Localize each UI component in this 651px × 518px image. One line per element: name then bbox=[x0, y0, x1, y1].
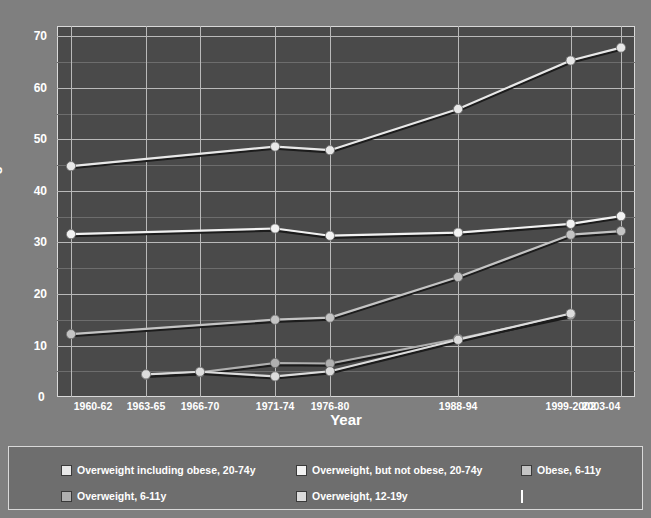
data-point-marker bbox=[270, 142, 279, 151]
y-axis-tick-label: 50 bbox=[13, 132, 47, 146]
series-line bbox=[71, 216, 621, 236]
data-point-marker bbox=[454, 272, 463, 281]
chart-legend: Overweight including obese, 20-74yOverwe… bbox=[8, 446, 643, 510]
x-axis-tick-label: 1971-74 bbox=[256, 400, 295, 412]
legend-item[interactable]: Overweight, 12-19y bbox=[296, 483, 521, 509]
y-axis-zero-label: 0 bbox=[38, 390, 45, 404]
x-axis-tick-label: 1988-94 bbox=[439, 400, 478, 412]
x-axis-label: Year bbox=[57, 411, 635, 428]
y-axis-label: Percentage bbox=[0, 158, 2, 233]
data-point-marker bbox=[454, 335, 463, 344]
data-point-marker bbox=[566, 230, 575, 239]
y-axis-tick-label: 70 bbox=[13, 29, 47, 43]
plot-wrapper: 10203040506070 1960-621963-651966-701971… bbox=[57, 26, 635, 397]
data-point-marker bbox=[325, 313, 334, 322]
y-axis-tick-label: 60 bbox=[13, 81, 47, 95]
y-axis-tick-label: 40 bbox=[13, 184, 47, 198]
y-axis-tick-label: 10 bbox=[13, 339, 47, 353]
x-axis-tick-label: 1976-80 bbox=[311, 400, 350, 412]
legend-item-label: Overweight, 6-11y bbox=[77, 490, 166, 502]
legend-swatch-icon bbox=[296, 491, 307, 502]
data-point-marker bbox=[616, 43, 625, 52]
series-line-shadow bbox=[71, 50, 621, 169]
legend-swatch-icon bbox=[521, 465, 532, 476]
data-point-marker bbox=[66, 330, 75, 339]
data-point-marker bbox=[270, 358, 279, 367]
legend-item-label: Overweight, but not obese, 20-74y bbox=[312, 464, 482, 476]
legend-item[interactable]: Overweight, 6-11y bbox=[61, 483, 296, 509]
x-axis-tick-label: 1960-62 bbox=[74, 400, 113, 412]
legend-swatch-icon bbox=[61, 465, 72, 476]
legend-swatch-icon bbox=[296, 465, 307, 476]
data-point-marker bbox=[454, 228, 463, 237]
legend-item[interactable]: Obese, 6-11y bbox=[521, 457, 636, 483]
chart-container: Percentage Year 0 10203040506070 1960-62… bbox=[0, 0, 651, 440]
data-point-marker bbox=[66, 230, 75, 239]
legend-item-label: Overweight, 12-19y bbox=[312, 490, 408, 502]
legend-items: Overweight including obese, 20-74yOverwe… bbox=[61, 457, 636, 509]
data-point-marker bbox=[454, 104, 463, 113]
legend-item-label: Obese, 6-11y bbox=[537, 464, 601, 476]
data-point-marker bbox=[141, 370, 150, 379]
data-point-marker bbox=[616, 226, 625, 235]
legend-item[interactable] bbox=[521, 483, 636, 509]
data-point-marker bbox=[195, 367, 204, 376]
x-axis-tick-label: 1966-70 bbox=[181, 400, 220, 412]
legend-swatch-icon bbox=[521, 490, 523, 503]
data-point-marker bbox=[325, 367, 334, 376]
data-point-marker bbox=[566, 56, 575, 65]
data-point-marker bbox=[66, 162, 75, 171]
x-axis-tick-label: 2003-04 bbox=[582, 400, 621, 412]
data-point-marker bbox=[270, 315, 279, 324]
y-axis-tick-label: 30 bbox=[13, 235, 47, 249]
data-point-marker bbox=[325, 146, 334, 155]
y-axis-tick-label: 20 bbox=[13, 287, 47, 301]
x-axis-tick-label: 1963-65 bbox=[127, 400, 166, 412]
series-lines bbox=[57, 26, 635, 397]
data-point-marker bbox=[616, 212, 625, 221]
legend-item[interactable]: Overweight including obese, 20-74y bbox=[61, 457, 296, 483]
data-point-marker bbox=[325, 231, 334, 240]
legend-item[interactable]: Overweight, but not obese, 20-74y bbox=[296, 457, 521, 483]
legend-swatch-icon bbox=[61, 491, 72, 502]
data-point-marker bbox=[270, 372, 279, 381]
legend-item-label: Overweight including obese, 20-74y bbox=[77, 464, 256, 476]
series-line bbox=[71, 231, 621, 334]
data-point-marker bbox=[566, 309, 575, 318]
series-line bbox=[71, 48, 621, 167]
data-point-marker bbox=[566, 219, 575, 228]
data-point-marker bbox=[270, 224, 279, 233]
